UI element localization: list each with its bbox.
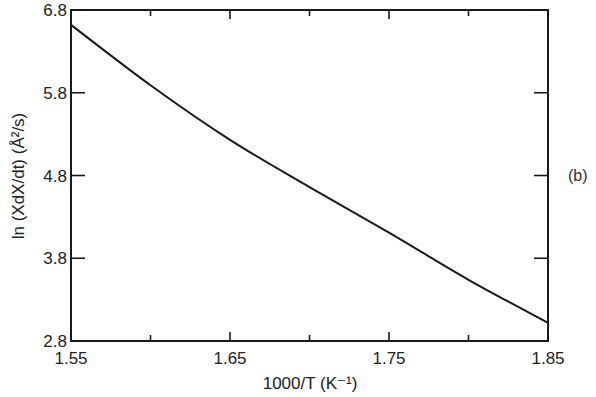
- y-tick-label: 3.8: [43, 249, 67, 268]
- chart: 1.551.651.751.852.83.84.85.86.8 1000/T (…: [0, 0, 596, 397]
- x-tick-label: 1.75: [372, 349, 405, 368]
- x-axis-label: 1000/T (K⁻¹): [263, 374, 358, 393]
- axis-ticks: [71, 10, 548, 341]
- plot-frame: [71, 10, 548, 341]
- y-tick-label: 5.8: [43, 84, 67, 103]
- x-tick-label: 1.55: [54, 349, 87, 368]
- panel-label: (b): [568, 167, 588, 184]
- data-curve: [71, 25, 548, 323]
- x-tick-label: 1.85: [531, 349, 564, 368]
- y-tick-label: 4.8: [43, 167, 67, 186]
- y-tick-label: 6.8: [43, 1, 67, 20]
- y-axis-label: ln (XdX/dt) (Å²/s): [9, 113, 28, 240]
- y-tick-label: 2.8: [43, 332, 67, 351]
- x-tick-label: 1.65: [213, 349, 246, 368]
